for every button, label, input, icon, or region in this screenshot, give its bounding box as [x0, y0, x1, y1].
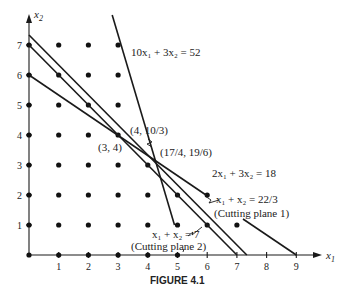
- y-axis-label: x2: [33, 8, 43, 23]
- x-tick-6: 6: [205, 261, 210, 272]
- label-point-3-4: (3, 4): [98, 141, 122, 154]
- x-axis-label: x1: [325, 249, 335, 264]
- y-tick-2: 2: [17, 190, 22, 201]
- x-tick-3: 3: [116, 261, 121, 272]
- y-tick-3: 3: [17, 160, 22, 171]
- y-tick-4: 4: [17, 130, 22, 141]
- x-axis-arrow-icon: [313, 252, 322, 258]
- y-tick-1: 1: [17, 220, 22, 231]
- x-tick-4: 4: [145, 261, 150, 272]
- x-tick-2: 2: [86, 261, 91, 272]
- y-axis-arrow-icon: [26, 14, 32, 23]
- x-tick-9: 9: [294, 261, 299, 272]
- label-point-4-10-3: (4, 10/3): [130, 124, 168, 137]
- x-tick-8: 8: [264, 261, 269, 272]
- line-cutting-plane-1: [29, 35, 247, 255]
- annotations: 10x₁ + 3x₂ = 52 2x₁ + 3x₂ = 18 x₁ + x₂ =…: [98, 46, 289, 253]
- label-cut1-eq: x₁ + x₂ = 22/3: [216, 193, 278, 205]
- x-tick-5: 5: [175, 261, 180, 272]
- label-point-17-4-19-6: (17/4, 19/6): [160, 146, 212, 159]
- label-cut1-name: (Cutting plane 1): [214, 207, 289, 220]
- line-2x1-3x2-18-tail: [243, 219, 296, 255]
- figure-4-1: x1 x2 1 2 3 4 5 6 7 8 9: [0, 0, 347, 303]
- y-tick-5: 5: [17, 100, 22, 111]
- x-tick-7: 7: [234, 261, 239, 272]
- label-cut2-eq: x₁ + x₂ = 7: [152, 228, 200, 240]
- label-cut2-name: (Cutting plane 2): [131, 240, 206, 253]
- x-tick-1: 1: [56, 261, 61, 272]
- y-tick-6: 6: [17, 70, 22, 81]
- y-tick-7: 7: [17, 40, 22, 51]
- figure-caption: FIGURE 4.1: [150, 275, 205, 286]
- label-2x1-3x2-18: 2x₁ + 3x₂ = 18: [212, 167, 277, 179]
- label-10x1-3x2-52: 10x₁ + 3x₂ = 52: [131, 46, 201, 58]
